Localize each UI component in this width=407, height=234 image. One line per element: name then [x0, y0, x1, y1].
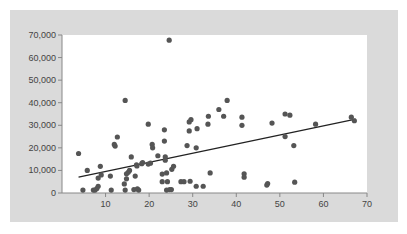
y-tick-label: 10,000 — [28, 165, 56, 175]
data-point — [291, 143, 296, 148]
data-point — [206, 114, 211, 119]
data-point — [96, 184, 101, 189]
data-point — [162, 127, 167, 132]
data-point — [194, 126, 199, 131]
data-point — [292, 180, 297, 185]
data-point — [162, 138, 167, 143]
x-tick-label: 30 — [188, 199, 198, 209]
data-point — [146, 122, 151, 127]
data-point — [201, 184, 206, 189]
x-tick-label: 20 — [144, 199, 154, 209]
scatter-chart: 010,00020,00030,00040,00050,00060,00070,… — [10, 10, 398, 222]
x-axis: 10203040506070 — [62, 193, 372, 209]
data-point — [216, 107, 221, 112]
chart-panel: 010,00020,00030,00040,00050,00060,00070,… — [10, 10, 398, 222]
data-point — [167, 38, 172, 43]
x-tick-label: 40 — [231, 199, 241, 209]
y-tick-label: 70,000 — [28, 30, 56, 40]
data-point — [194, 145, 199, 150]
data-point — [282, 111, 287, 116]
data-point — [99, 172, 104, 177]
data-point — [122, 181, 127, 186]
data-point — [136, 187, 141, 192]
data-point — [80, 187, 85, 192]
data-point — [127, 168, 132, 173]
data-point — [155, 153, 160, 158]
data-point — [188, 117, 193, 122]
data-point — [108, 173, 113, 178]
y-tick-label: 50,000 — [28, 75, 56, 85]
data-point — [76, 151, 81, 156]
data-point — [265, 181, 270, 186]
data-point — [165, 179, 170, 184]
data-point — [181, 179, 186, 184]
x-tick-label: 60 — [318, 199, 328, 209]
data-point — [123, 98, 128, 103]
data-point — [123, 187, 128, 192]
data-point — [225, 98, 230, 103]
data-point — [164, 170, 169, 175]
y-tick-label: 60,000 — [28, 53, 56, 63]
x-tick-label: 70 — [362, 199, 372, 209]
plot-area — [62, 35, 367, 193]
data-point — [113, 143, 118, 148]
data-point — [129, 154, 134, 159]
data-point — [124, 176, 129, 181]
data-point — [98, 164, 103, 169]
y-tick-label: 20,000 — [28, 143, 56, 153]
data-point — [140, 160, 145, 165]
data-point — [239, 123, 244, 128]
data-point — [133, 173, 138, 178]
data-point — [150, 145, 155, 150]
data-point — [187, 128, 192, 133]
y-tick-label: 0 — [51, 188, 56, 198]
data-point — [282, 134, 287, 139]
data-point — [163, 158, 168, 163]
data-point — [148, 161, 153, 166]
data-point — [194, 184, 199, 189]
data-point — [352, 118, 357, 123]
data-point — [313, 122, 318, 127]
y-axis: 010,00020,00030,00040,00050,00060,00070,… — [28, 30, 62, 198]
data-point — [160, 179, 165, 184]
data-point — [287, 113, 292, 118]
data-point — [134, 163, 139, 168]
data-point — [164, 187, 169, 192]
data-point — [205, 122, 210, 127]
x-tick-label: 50 — [275, 199, 285, 209]
data-point — [115, 134, 120, 139]
data-point — [109, 187, 114, 192]
data-point — [160, 171, 165, 176]
data-point — [85, 168, 90, 173]
y-tick-label: 40,000 — [28, 98, 56, 108]
data-point — [169, 187, 174, 192]
data-point — [269, 120, 274, 125]
data-point — [184, 143, 189, 148]
data-point — [239, 115, 244, 120]
y-tick-label: 30,000 — [28, 120, 56, 130]
x-tick-label: 10 — [101, 199, 111, 209]
data-point — [208, 170, 213, 175]
data-point — [171, 164, 176, 169]
data-point — [221, 114, 226, 119]
data-point — [242, 175, 247, 180]
data-point — [188, 179, 193, 184]
